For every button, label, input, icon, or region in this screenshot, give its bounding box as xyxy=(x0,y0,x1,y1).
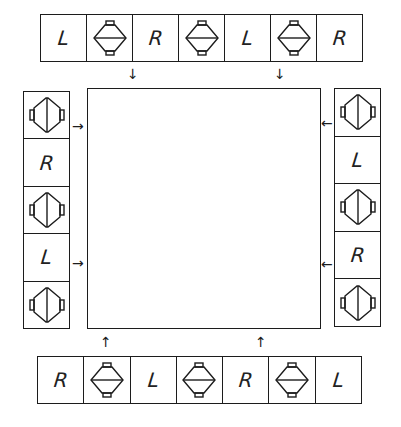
letter-r: R xyxy=(349,243,365,267)
bottom-cell-3: L xyxy=(131,357,177,403)
arrow-right-icon: → xyxy=(72,119,84,133)
right-cell-4: R xyxy=(335,232,380,280)
top-cell-7: R xyxy=(317,15,362,61)
bottom-cell-4 xyxy=(177,357,223,403)
lantern-horizontal-icon xyxy=(87,360,127,400)
lantern-horizontal-icon xyxy=(179,360,219,400)
top-cell-4 xyxy=(179,15,225,61)
bottom-cell-5: R xyxy=(223,357,269,403)
letter-l: L xyxy=(40,245,54,269)
top-cell-3: R xyxy=(133,15,179,61)
right-cell-1 xyxy=(335,89,380,137)
letter-l: L xyxy=(331,368,345,392)
arrow-up-icon: ↑ xyxy=(100,335,112,349)
right-cell-3 xyxy=(335,184,380,232)
letter-r: R xyxy=(147,26,163,50)
bottom-cell-1: R xyxy=(38,357,84,403)
arrow-left-icon: ← xyxy=(321,116,333,130)
right-cell-5 xyxy=(335,279,380,326)
lantern-horizontal-icon xyxy=(274,18,314,58)
bottom-cell-2 xyxy=(84,357,130,403)
lantern-vertical-icon xyxy=(338,92,378,132)
arrow-down-icon: ↓ xyxy=(274,67,286,81)
right-cell-2: L xyxy=(335,137,380,185)
left-strip: R L xyxy=(23,91,70,329)
letter-l: L xyxy=(146,368,160,392)
top-cell-6 xyxy=(271,15,317,61)
letter-l: L xyxy=(57,26,71,50)
lantern-horizontal-icon xyxy=(272,360,312,400)
left-cell-5 xyxy=(24,282,69,328)
left-cell-3 xyxy=(24,187,69,234)
lantern-vertical-icon xyxy=(338,283,378,323)
arrow-left-icon: ← xyxy=(321,257,333,271)
top-cell-2 xyxy=(87,15,133,61)
letter-r: R xyxy=(238,368,254,392)
bottom-cell-6 xyxy=(269,357,315,403)
arrow-right-icon: → xyxy=(72,256,84,270)
lantern-vertical-icon xyxy=(27,95,67,135)
letter-l: L xyxy=(241,26,255,50)
bottom-cell-7: L xyxy=(316,357,361,403)
arrow-down-icon: ↓ xyxy=(127,67,139,81)
lantern-vertical-icon xyxy=(27,190,67,230)
bottom-strip: R L R L xyxy=(37,356,362,404)
arrow-up-icon: ↑ xyxy=(255,335,267,349)
central-square xyxy=(87,88,321,329)
top-strip: L R L R xyxy=(40,14,363,62)
letter-r: R xyxy=(52,368,68,392)
left-cell-1 xyxy=(24,92,69,139)
lantern-horizontal-icon xyxy=(182,18,222,58)
letter-r: R xyxy=(38,151,54,175)
right-strip: L R xyxy=(334,88,381,327)
lantern-vertical-icon xyxy=(338,187,378,227)
top-cell-5: L xyxy=(225,15,271,61)
top-cell-1: L xyxy=(41,15,87,61)
letter-l: L xyxy=(351,148,365,172)
letter-r: R xyxy=(331,26,347,50)
left-cell-2: R xyxy=(24,139,69,186)
lantern-horizontal-icon xyxy=(90,18,130,58)
left-cell-4: L xyxy=(24,234,69,281)
lantern-vertical-icon xyxy=(27,285,67,325)
